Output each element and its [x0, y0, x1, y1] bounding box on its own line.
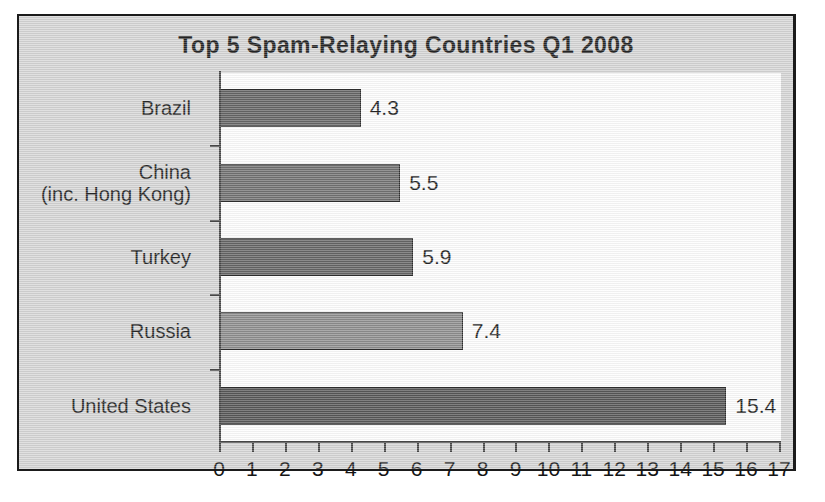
x-axis-tick: [318, 443, 320, 452]
category-label-line: Brazil: [0, 97, 191, 119]
x-axis-tick: [779, 443, 781, 452]
x-axis-tick: [581, 443, 583, 452]
bar[interactable]: [219, 238, 413, 276]
category-label-line: United States: [0, 395, 191, 417]
x-axis-tick: [219, 443, 221, 452]
plot-area: 01234567891011121314151617 4.35.55.97.41…: [219, 71, 781, 443]
bar-value-label: 4.3: [361, 96, 399, 120]
category-label-line: China: [0, 161, 191, 183]
x-axis-tick: [515, 443, 517, 452]
x-axis-tick-label: 17: [759, 457, 799, 481]
x-axis-tick: [548, 443, 550, 452]
bar[interactable]: [219, 89, 361, 127]
y-axis-line: [219, 71, 221, 443]
bar[interactable]: [219, 312, 463, 350]
category-label: United States: [0, 395, 191, 417]
bar-row: 4.3: [219, 89, 779, 127]
x-axis-tick: [252, 443, 254, 452]
x-axis-tick: [647, 443, 649, 452]
bar-value-label: 5.9: [413, 245, 451, 269]
category-label: China(inc. Hong Kong): [0, 161, 191, 206]
x-axis-tick: [483, 443, 485, 452]
bar-row: 5.5: [219, 164, 779, 202]
bar[interactable]: [219, 387, 726, 425]
x-axis-tick: [285, 443, 287, 452]
bar-row: 5.9: [219, 238, 779, 276]
category-label: Turkey: [0, 246, 191, 268]
x-axis-tick: [680, 443, 682, 452]
x-axis-line: [219, 441, 781, 443]
x-axis-tick: [614, 443, 616, 452]
bar-value-label: 15.4: [726, 394, 776, 418]
y-axis-tick: [210, 145, 219, 147]
x-axis-tick: [384, 443, 386, 452]
x-axis-tick: [450, 443, 452, 452]
category-label-line: (inc. Hong Kong): [0, 183, 191, 205]
bar-row: 15.4: [219, 387, 779, 425]
chart-figure: Top 5 Spam-Relaying Countries Q1 2008 01…: [17, 14, 796, 471]
x-axis-tick: [713, 443, 715, 452]
bar-value-label: 7.4: [463, 319, 501, 343]
x-axis-tick: [746, 443, 748, 452]
x-axis-tick: [351, 443, 353, 452]
x-axis-tick: [417, 443, 419, 452]
chart-title: Top 5 Spam-Relaying Countries Q1 2008: [19, 32, 793, 59]
y-axis-tick: [210, 220, 219, 222]
bar-value-label: 5.5: [400, 171, 438, 195]
bar-row: 7.4: [219, 312, 779, 350]
category-label: Russia: [0, 320, 191, 342]
category-label-line: Russia: [0, 320, 191, 342]
category-label-line: Turkey: [0, 246, 191, 268]
y-axis-tick: [210, 294, 219, 296]
y-axis-tick: [210, 369, 219, 371]
category-label: Brazil: [0, 97, 191, 119]
bar[interactable]: [219, 164, 400, 202]
